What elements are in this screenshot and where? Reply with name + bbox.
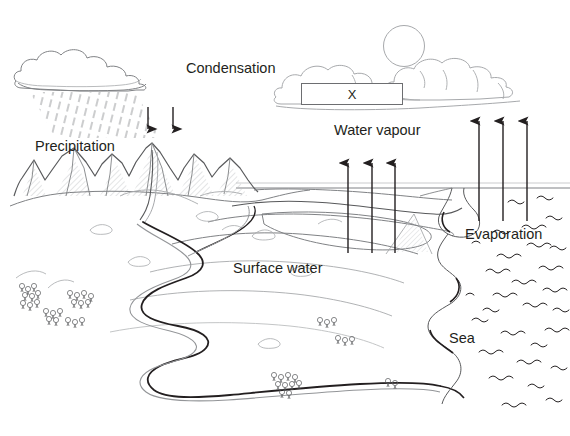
rain-hatching — [30, 92, 160, 138]
label-precipitation: Precipitation — [35, 139, 115, 154]
horizon-line — [236, 183, 570, 188]
sun-icon — [384, 26, 425, 67]
diagram-artwork — [0, 0, 570, 436]
label-condensation: Condensation — [186, 61, 276, 76]
rain-cloud-icon — [14, 50, 146, 91]
answer-box-x[interactable]: X — [301, 83, 403, 105]
coastline — [420, 188, 480, 404]
label-water-vapour: Water vapour — [334, 123, 421, 138]
water-cycle-diagram: Condensation Precipitation Water vapour … — [0, 0, 570, 436]
label-evaporation: Evaporation — [465, 227, 542, 242]
label-sea: Sea — [449, 331, 475, 346]
label-surface-water: Surface water — [233, 261, 322, 276]
evaporation-arrows — [479, 121, 527, 221]
